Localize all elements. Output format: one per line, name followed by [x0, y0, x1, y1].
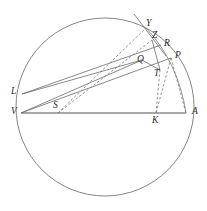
point-label-R: R: [164, 39, 170, 49]
chord-L-Q: [22, 60, 142, 94]
point-label-T: T: [154, 69, 159, 79]
point-label-Z: Z: [152, 31, 157, 41]
point-label-L: L: [11, 87, 16, 97]
geometry-figure: L V S K A T P Q R Z Y: [0, 0, 207, 211]
point-label-V: V: [11, 107, 17, 117]
point-label-S: S: [53, 101, 58, 111]
chord-V-P: [21, 58, 171, 113]
chord-V-Q: [21, 60, 142, 113]
point-label-P: P: [175, 51, 181, 61]
segment-Z-T: [152, 40, 160, 70]
point-label-Q: Q: [137, 55, 144, 65]
dashed-S-Y: [58, 28, 146, 113]
point-label-A: A: [192, 107, 198, 117]
point-label-K: K: [152, 116, 158, 126]
figure-canvas: [0, 0, 207, 211]
point-label-Y: Y: [146, 19, 151, 29]
